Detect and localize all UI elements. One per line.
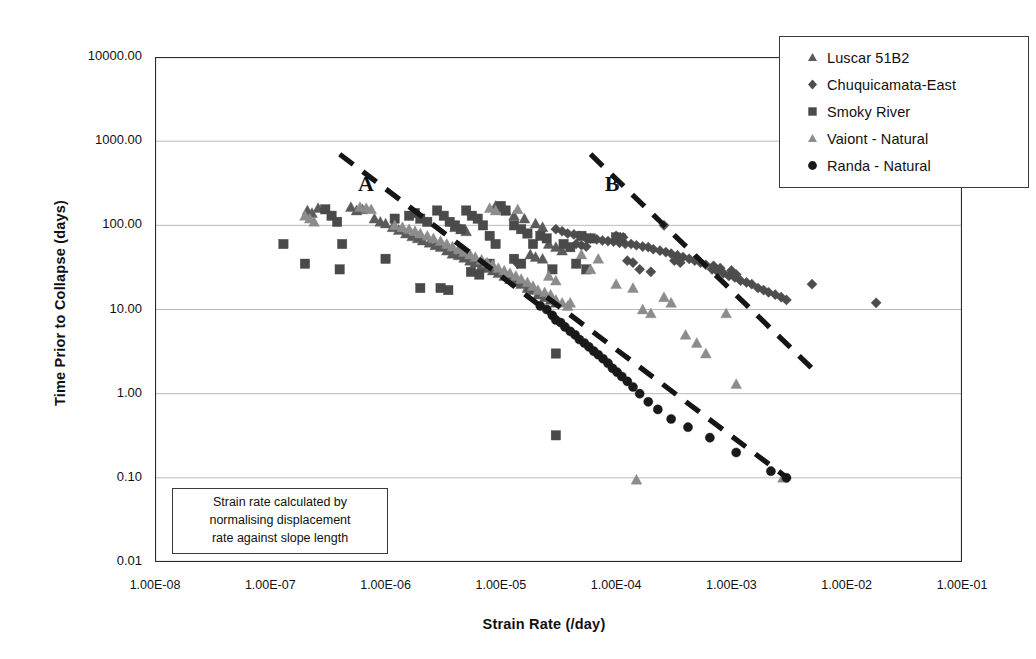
data-point-square [335,265,344,274]
legend-marker-triangle-icon [804,49,821,66]
y-tick-label: 0.10 [32,469,142,484]
y-tick-label: 10.00 [32,301,142,316]
legend-label: Randa - Natural [827,158,931,174]
data-point-circle [628,382,637,391]
data-point-square [551,349,560,358]
data-point-triangle [519,213,530,223]
data-point-triangle-light [731,379,742,389]
data-point-circle [705,433,714,442]
x-tick-label: 1.00E-06 [331,578,441,592]
data-point-square [551,431,560,440]
data-point-circle [644,397,653,406]
data-point-circle [653,405,662,414]
data-point-square [491,239,500,248]
data-point-square [571,259,580,268]
x-tick-label: 1.00E-01 [907,578,1017,592]
legend-marker-square-icon [804,103,821,120]
data-point-square [523,229,532,238]
legend-item-1[interactable]: Chuquicamata-East [780,71,1028,98]
data-point-square [381,254,390,263]
data-point-diamond [646,267,656,277]
x-tick-label: 1.00E-07 [215,578,325,592]
data-point-triangle-light [659,292,670,302]
data-point-diamond [635,264,645,274]
y-tick-label: 0.01 [32,553,142,568]
data-point-square [279,239,288,248]
legend-marker-circle-icon [804,157,821,174]
x-tick-label: 1.00E-04 [561,578,671,592]
data-point-square [423,217,432,226]
data-point-square [444,285,453,294]
trend-label-A: A [358,171,374,197]
y-tick-label: 1.00 [32,385,142,400]
data-point-square [616,234,625,243]
legend-item-2[interactable]: Smoky River [780,98,1028,125]
y-tick-label: 10000.00 [32,48,142,63]
legend-label: Chuquicamata-East [827,77,956,93]
data-point-square [300,259,309,268]
data-point-triangle-light [631,474,642,484]
data-point-triangle-light [565,297,576,307]
chart-page: Time Prior to Collapse (days) Strain Rat… [0,0,1036,659]
legend: Luscar 51B2Chuquicamata-EastSmoky RiverV… [779,36,1029,188]
data-point-square [516,259,525,268]
data-point-square [577,231,586,240]
data-point-triangle-light [680,329,691,339]
data-point-triangle-light [637,304,648,314]
data-point-circle [732,448,741,457]
x-tick-label: 1.00E-05 [446,578,556,592]
annotation-box: Strain rate calculated by normalising di… [172,488,388,554]
data-point-square [586,234,595,243]
legend-item-3[interactable]: Vaiont - Natural [780,125,1028,152]
data-point-triangle-light [512,204,523,214]
data-point-square [566,242,575,251]
data-point-circle [667,414,676,423]
data-point-square [475,270,484,279]
x-tick-label: 1.00E-08 [100,578,210,592]
legend-marker-diamond-icon [804,76,821,93]
legend-label: Vaiont - Natural [827,131,928,147]
data-point-diamond [871,298,881,308]
data-point-triangle [530,218,541,228]
x-axis-title-text: Strain Rate (/day) [431,616,606,632]
data-point-square [478,221,487,230]
data-point-triangle-light [628,283,639,293]
data-point-triangle-light [691,338,702,348]
data-point-square [337,239,346,248]
legend-marker-triangle-light-icon [804,130,821,147]
trend-label-B: B [605,171,620,197]
data-point-square [466,267,475,276]
x-axis-title: Strain Rate (/day) [0,616,1036,632]
legend-label: Smoky River [827,104,910,120]
trend-line-randa-trend [547,297,790,480]
legend-item-4[interactable]: Randa - Natural [780,152,1028,179]
data-point-circle [766,467,775,476]
data-point-square [501,206,510,215]
data-point-square [456,224,465,233]
data-point-diamond [807,279,817,289]
annotation-line-3: rate against slope length [181,530,379,548]
data-point-square [416,283,425,292]
x-tick-label: 1.00E-03 [676,578,786,592]
data-point-circle [635,389,644,398]
data-point-triangle-light [593,253,604,263]
data-point-circle [683,423,692,432]
x-tick-label: 1.00E-02 [792,578,902,592]
data-point-triangle-light [611,279,622,289]
annotation-line-2: normalising displacement [181,512,379,530]
data-point-square [332,217,341,226]
y-tick-label: 100.00 [32,216,142,231]
data-point-square [542,234,551,243]
data-point-triangle-light [700,348,711,358]
y-tick-label: 1000.00 [32,132,142,147]
legend-item-0[interactable]: Luscar 51B2 [780,44,1028,71]
annotation-line-1: Strain rate calculated by [181,494,379,512]
legend-label: Luscar 51B2 [827,50,910,66]
